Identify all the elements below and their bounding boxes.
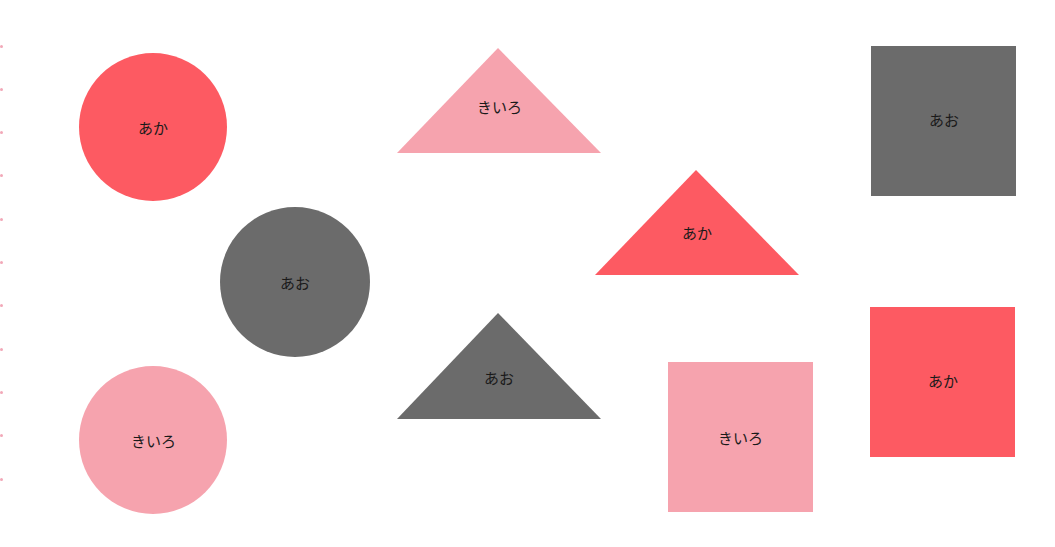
edge-dot [0, 478, 3, 481]
edge-dot [0, 45, 3, 48]
edge-dot [0, 131, 3, 134]
edge-dot [0, 218, 3, 221]
edge-dot [0, 88, 3, 91]
triangle-pink-label: きいろ [397, 96, 601, 117]
square-pink-label: きいろ [718, 427, 763, 448]
triangle-pink[interactable]: きいろ [397, 48, 601, 154]
square-pink[interactable]: きいろ [668, 362, 813, 512]
triangle-red[interactable]: あか [595, 170, 799, 276]
edge-dot [0, 348, 3, 351]
circle-pink-label: きいろ [131, 430, 176, 451]
circle-gray[interactable]: あお [220, 207, 370, 357]
circle-red[interactable]: あか [79, 53, 227, 201]
edge-dot [0, 304, 3, 307]
edge-dot [0, 434, 3, 437]
edge-dot [0, 261, 3, 264]
square-red-label: あか [928, 370, 958, 391]
edge-dot [0, 391, 3, 394]
triangle-gray[interactable]: あお [397, 313, 601, 420]
circle-pink[interactable]: きいろ [79, 366, 227, 514]
square-gray-label: あお [929, 109, 959, 130]
left-edge-dots [0, 0, 4, 547]
edge-dot [0, 174, 3, 177]
triangle-red-label: あか [595, 222, 799, 243]
square-red[interactable]: あか [870, 307, 1015, 457]
circle-red-label: あか [138, 117, 168, 138]
triangle-gray-label: あお [397, 367, 601, 388]
square-gray[interactable]: あお [871, 46, 1016, 196]
circle-gray-label: あお [280, 272, 310, 293]
